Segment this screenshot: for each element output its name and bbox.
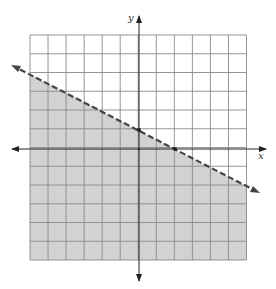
point-y-intercept [137,128,141,132]
point-x-intercept [173,147,177,151]
inequality-graph [0,0,276,289]
x-axis-label: x [258,150,264,161]
y-axis-label: y [128,12,134,23]
boundary-arrow-right [250,186,260,193]
boundary-arrow-left [11,65,21,72]
